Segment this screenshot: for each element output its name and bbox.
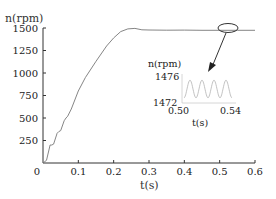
x-tick-label: 0.2 (106, 166, 122, 177)
zoom-region-ellipse (218, 24, 238, 33)
y-tick-label: 1000 (13, 68, 38, 79)
axes (43, 28, 255, 163)
x-tick-label: 0.6 (247, 166, 263, 177)
x-tick-label: 0.5 (212, 166, 228, 177)
y-tick-label: 1250 (13, 45, 38, 56)
inset-xtick-054: 0.54 (220, 105, 241, 116)
x-tick-label: 0.1 (70, 166, 86, 177)
y-tick-label: 500 (19, 113, 38, 124)
speed-response-chart: 250500750100012501500 00.10.20.30.40.50.… (0, 0, 276, 199)
inset-plot: n(rpm) 1476 1472 0.50 0.54 t(s) (148, 58, 241, 128)
inset-speed-ripple (184, 80, 232, 98)
inset-ytick-1476: 1476 (155, 71, 179, 82)
y-tick-label: 750 (19, 90, 38, 101)
inset-xtick-050: 0.50 (168, 105, 189, 116)
inset-y-title: n(rpm) (148, 58, 181, 69)
y-tick-label: 250 (19, 135, 38, 146)
arrow-head-icon (208, 62, 216, 72)
speed-curve (43, 28, 255, 163)
x-tick-label: 0.3 (141, 166, 157, 177)
x-axis-title: t(s) (140, 179, 159, 192)
inset-x-title: t(s) (192, 117, 208, 128)
x-tick-label: 0.4 (176, 166, 192, 177)
x-tick-label: 0 (34, 166, 40, 177)
y-ticks: 250500750100012501500 (13, 23, 46, 147)
zoom-arrow (212, 33, 226, 67)
y-axis-title: n(rpm) (5, 12, 43, 25)
